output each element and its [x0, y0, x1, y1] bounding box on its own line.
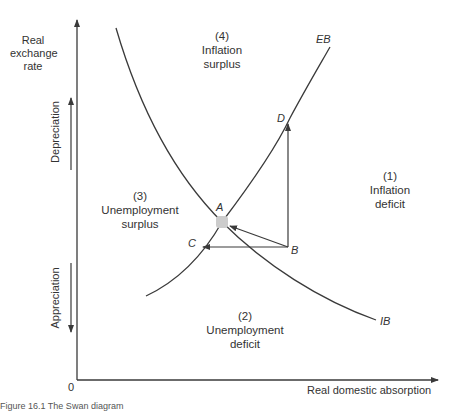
region-2-number: (2) [200, 309, 290, 323]
ib-curve-label: IB [380, 315, 390, 327]
region-2-unemployment-deficit: (2) Unemployment deficit [200, 309, 290, 351]
y-label-line2: exchange [10, 47, 56, 60]
y-label-line3: rate [10, 60, 56, 73]
eb-curve [146, 47, 330, 296]
origin-label: 0 [68, 381, 74, 394]
appreciation-label: Appreciation [49, 263, 61, 333]
y-axis-label: Real exchange rate [10, 34, 56, 73]
region-4-inflation-surplus: (4) Inflation surplus [192, 29, 252, 71]
x-axis-label: Real domestic absorption [307, 384, 431, 397]
region-1-line2: deficit [360, 197, 420, 211]
region-4-number: (4) [192, 29, 252, 43]
region-4-line1: Inflation [192, 43, 252, 57]
region-3-unemployment-surplus: (3) Unemployment surplus [95, 189, 185, 231]
region-3-line2: surplus [95, 217, 185, 231]
point-d-label: D [277, 112, 285, 124]
depreciation-label: Depreciation [49, 97, 61, 167]
figure-caption: Figure 16.1 The Swan diagram [0, 401, 123, 411]
point-b-label: B [291, 244, 298, 256]
region-2-line1: Unemployment [200, 323, 290, 337]
ib-curve [116, 28, 376, 320]
region-4-line2: surplus [192, 57, 252, 71]
region-3-line1: Unemployment [95, 203, 185, 217]
eb-curve-label: EB [316, 33, 331, 45]
point-a-label: A [216, 201, 223, 213]
region-3-number: (3) [95, 189, 185, 203]
region-1-line1: Inflation [360, 183, 420, 197]
region-1-inflation-deficit: (1) Inflation deficit [360, 169, 420, 211]
region-2-line2: deficit [200, 337, 290, 351]
arrow-b-to-a [230, 226, 288, 247]
point-c-label: C [188, 237, 196, 249]
region-1-number: (1) [360, 169, 420, 183]
equilibrium-point-a [216, 216, 228, 228]
y-label-line1: Real [10, 34, 56, 47]
